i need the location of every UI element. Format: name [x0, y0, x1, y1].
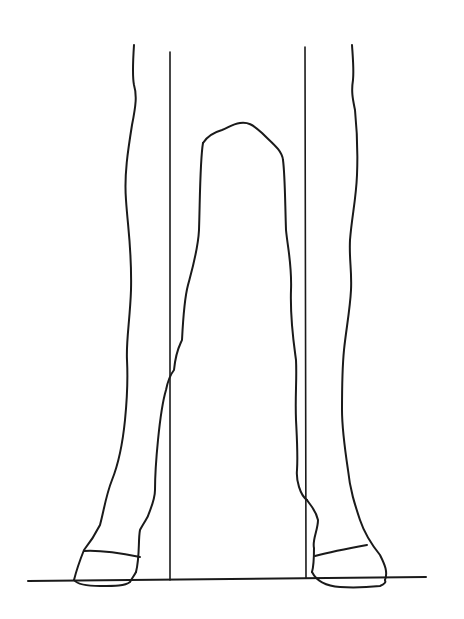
right-leg-outer	[342, 45, 386, 580]
left-leg-outer	[74, 45, 136, 580]
left-leg-inner	[203, 123, 307, 500]
right-hoof	[312, 545, 385, 587]
right-leg-inner-lower	[307, 500, 318, 572]
horse-legs-diagram	[0, 0, 464, 619]
ground-line	[28, 577, 426, 581]
